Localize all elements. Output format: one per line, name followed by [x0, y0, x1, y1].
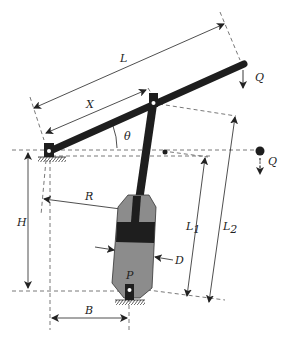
dimension-H: H [16, 153, 28, 288]
pivot-hole [47, 149, 51, 153]
diagram-canvas: L X θ H R B L1 L2 P [0, 0, 285, 341]
dimension-L2: L2 [209, 117, 237, 302]
dashed-bottom-slant [140, 289, 225, 300]
dimension-B: B [52, 304, 127, 318]
dimension-L-line [34, 24, 224, 108]
dashed-r-extension [41, 160, 46, 215]
load-ball-right [256, 147, 265, 156]
dimension-D-right-arrow [155, 257, 173, 260]
dashed-l-ext-right [220, 12, 240, 60]
ground-hatch-p [115, 300, 145, 305]
rod-joint-hole [152, 101, 156, 105]
label-L2: L2 [222, 220, 237, 236]
dimension-L2-line [209, 117, 235, 302]
label-X: X [85, 98, 95, 111]
piston-head [116, 222, 155, 243]
label-D: D [174, 254, 184, 267]
label-B: B [84, 304, 93, 317]
dashed-l-ext-left [30, 97, 44, 140]
ground-hatch-pivot [38, 157, 66, 162]
label-H: H [16, 216, 27, 229]
label-L1: L1 [185, 220, 200, 236]
dimension-D-left-arrow [95, 247, 114, 250]
label-R: R [84, 190, 93, 203]
label-P: P [125, 269, 134, 282]
dimension-L1: L1 [185, 158, 205, 296]
pin-P-hole [128, 288, 132, 292]
mechanism-diagram: L X θ H R B L1 L2 P [0, 0, 285, 341]
center-of-mass-dot [163, 150, 168, 155]
dimension-L: L [34, 24, 224, 108]
dashed-rod-top-extension [159, 104, 236, 116]
label-Q-top: Q [255, 71, 264, 84]
theta-arc [113, 126, 117, 148]
label-L: L [119, 52, 127, 65]
label-Q-right: Q [268, 155, 277, 168]
label-theta: θ [124, 130, 131, 143]
